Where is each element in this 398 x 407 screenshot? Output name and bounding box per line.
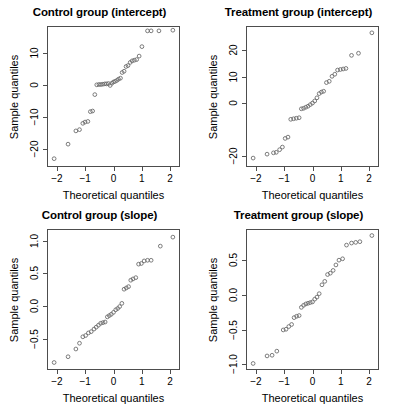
y-tick-label: −1.0: [228, 355, 239, 375]
y-tick-label: 0: [29, 83, 40, 89]
x-tick-label: −1: [278, 173, 289, 184]
data-point: [350, 53, 354, 57]
data-point: [93, 93, 97, 97]
panel-title: Control group (slope): [0, 209, 199, 221]
data-point: [350, 241, 354, 245]
data-point: [135, 58, 139, 62]
scatter-points: [48, 27, 179, 166]
plot-area: [246, 229, 379, 370]
x-tick: [170, 370, 171, 374]
x-tick-label: −2: [250, 376, 261, 387]
y-tick-label: 1.0: [29, 234, 40, 248]
y-axis-title: Sample quantiles: [8, 54, 20, 138]
data-point: [66, 142, 70, 146]
x-tick: [85, 167, 86, 171]
x-tick-label: 0: [310, 376, 316, 387]
data-point: [357, 51, 361, 55]
x-tick: [114, 167, 115, 171]
x-tick-label: 1: [139, 376, 145, 387]
x-tick: [256, 370, 257, 374]
x-tick-label: 0: [111, 173, 117, 184]
panel-title: Treatment group (slope): [199, 209, 398, 221]
x-tick-label: 2: [167, 173, 173, 184]
x-tick: [57, 167, 58, 171]
data-point: [320, 283, 324, 287]
x-tick: [341, 167, 342, 171]
x-tick: [341, 370, 342, 374]
y-tick: [43, 117, 47, 118]
data-point: [52, 157, 56, 161]
data-point: [251, 362, 255, 366]
x-tick: [369, 167, 370, 171]
x-tick-label: −2: [51, 376, 62, 387]
data-point: [74, 129, 78, 133]
qq-panel-4: Treatment group (slope)−2−1012−1.0−0.50.…: [199, 203, 398, 406]
y-tick: [242, 260, 246, 261]
data-point: [334, 263, 338, 267]
scatter-points: [48, 230, 179, 369]
y-tick: [43, 306, 47, 307]
data-point: [337, 258, 341, 262]
y-tick-label: 0: [228, 100, 239, 106]
data-point: [315, 96, 319, 100]
data-point: [78, 341, 82, 345]
scatter-points: [247, 27, 378, 166]
y-tick-label: 20: [228, 44, 239, 55]
x-tick-label: 2: [366, 173, 372, 184]
x-tick-label: 1: [338, 376, 344, 387]
y-tick: [43, 241, 47, 242]
x-tick: [85, 370, 86, 374]
qq-panel-3: Control group (slope)−2−1012−0.50.00.51.…: [0, 203, 199, 406]
y-axis-title: Sample quantiles: [207, 257, 219, 341]
x-axis-title: Theoretical quantiles: [213, 392, 398, 404]
x-tick: [313, 167, 314, 171]
x-axis-title: Theoretical quantiles: [213, 189, 398, 201]
x-tick-label: −2: [51, 173, 62, 184]
data-point: [333, 72, 337, 76]
x-tick-label: 2: [366, 376, 372, 387]
data-point: [331, 269, 335, 273]
y-tick: [242, 50, 246, 51]
data-point: [66, 355, 70, 359]
x-axis-title: Theoretical quantiles: [14, 189, 213, 201]
data-point: [120, 301, 124, 305]
data-point: [74, 347, 78, 351]
x-tick-label: −1: [79, 376, 90, 387]
panel-title: Treatment group (intercept): [199, 6, 398, 18]
data-point: [281, 145, 285, 149]
data-point: [358, 240, 362, 244]
y-tick: [242, 364, 246, 365]
y-tick: [242, 295, 246, 296]
data-point: [157, 29, 161, 33]
plot-area: [246, 26, 379, 167]
y-tick: [242, 77, 246, 78]
x-tick: [284, 167, 285, 171]
y-tick-label: 0.0: [29, 299, 40, 313]
x-axis-title: Theoretical quantiles: [14, 392, 213, 404]
data-point: [91, 109, 95, 113]
x-tick: [114, 370, 115, 374]
x-tick-label: −1: [79, 173, 90, 184]
data-point: [103, 320, 107, 324]
data-point: [265, 354, 269, 358]
y-tick-label: 10: [228, 71, 239, 82]
qq-panel-1: Control group (intercept)−2−1012−20−1001…: [0, 0, 199, 203]
data-point: [345, 243, 349, 247]
x-tick-label: 2: [167, 376, 173, 387]
data-point: [354, 241, 358, 245]
y-tick-label: −20: [228, 148, 239, 165]
data-point: [78, 128, 82, 132]
data-point: [341, 257, 345, 261]
x-tick: [57, 370, 58, 374]
data-point: [158, 244, 162, 248]
x-tick: [284, 370, 285, 374]
y-tick: [43, 53, 47, 54]
y-tick: [43, 85, 47, 86]
y-tick: [43, 149, 47, 150]
data-point: [270, 353, 274, 357]
data-point: [297, 314, 301, 318]
data-point: [171, 235, 175, 239]
y-axis-title: Sample quantiles: [8, 257, 20, 341]
y-tick: [43, 273, 47, 274]
data-point: [323, 279, 327, 283]
